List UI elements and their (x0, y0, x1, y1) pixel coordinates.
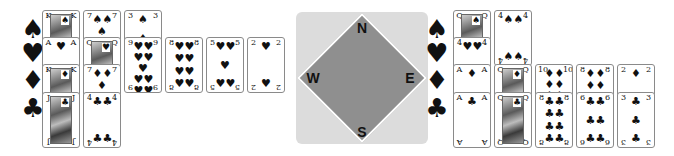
card-6-of-clubs[interactable]: 6666♣♣♣♣♣♣ (576, 92, 614, 148)
suit-pip-icon: ♦ (586, 68, 595, 79)
card-rank: 4 (522, 56, 529, 64)
card-rank: A (481, 94, 488, 102)
card-rank: A (481, 66, 488, 74)
card-pips: ♠♠♠♠ (503, 14, 523, 62)
suit-pip-icon: ♥ (175, 53, 184, 64)
suit-icon: ♥ (102, 43, 110, 52)
card-j-of-clubs[interactable]: JJJJ♣ (42, 92, 80, 148)
suit-pip-icon: ♦ (596, 68, 605, 79)
suit-pip-icon: ♠ (93, 14, 102, 25)
suit-pip-icon: ♥ (185, 78, 194, 89)
suit-pip-icon: ♠ (504, 14, 513, 25)
card-rank: 4 (522, 12, 529, 20)
suit-pip-icon: ♣ (586, 133, 595, 144)
card-pips: ♥♥ (256, 41, 276, 89)
suit-pip-icon: ♥ (463, 41, 472, 52)
suit-label-hearts: ♥ (424, 40, 450, 66)
card-2-of-hearts[interactable]: 2222♥♥ (247, 37, 285, 93)
suit-pip-icon: ♣ (596, 115, 605, 126)
card-rank: 4 (111, 138, 118, 146)
suit-pip-icon: ♣ (586, 115, 595, 126)
suit-icon: ♣ (61, 98, 69, 107)
suit-pip-icon: ♥ (216, 78, 225, 89)
suit-pip-icon: ♠ (514, 51, 523, 62)
card-q-of-clubs[interactable]: QQQQ♣ (494, 92, 532, 148)
suit-pip-icon: ♣ (555, 108, 564, 119)
card-rank: 7 (111, 66, 118, 74)
suit-pip-icon: ♣ (93, 133, 102, 144)
card-rank: 2 (275, 83, 282, 91)
suit-pip-icon: ♥ (216, 41, 225, 52)
card-pips: ♥♥♥♥♥♥♥♥♥ (133, 41, 153, 89)
suit-pip-icon: ♦ (462, 68, 482, 79)
card-pips: ♣♣♣♣♣♣♣♣ (544, 96, 564, 144)
face-card-art: ♣ (50, 96, 72, 144)
suit-pip-icon: ♥ (175, 78, 184, 89)
suit-pip-icon: ♥ (185, 41, 194, 52)
suit-pip-icon: ♣ (545, 108, 554, 119)
suit-pip-icon: ♣ (545, 121, 554, 132)
suit-pip-icon: ♣ (586, 96, 595, 107)
suit-pip-icon: ♥ (175, 41, 184, 52)
suit-pip-icon: ♣ (545, 133, 554, 144)
suit-pip-icon: ♦ (92, 80, 112, 91)
suit-icon: ♣ (513, 98, 521, 107)
card-rank: 9 (152, 83, 159, 91)
card-rank: 3 (645, 94, 652, 102)
suit-pip-icon: ♥ (144, 85, 153, 93)
card-rank: 8 (563, 94, 570, 102)
suit-pip-icon: ♠ (92, 26, 112, 37)
card-8-of-clubs[interactable]: 8888♣♣♣♣♣♣♣♣ (535, 92, 573, 148)
card-rank: A (481, 138, 488, 146)
compass-north: N (354, 20, 370, 36)
suit-pip-icon: ♥ (134, 85, 143, 93)
card-rank: 8 (604, 66, 611, 74)
card-rank: 6 (604, 94, 611, 102)
suit-pip-icon: ♥ (51, 41, 71, 52)
card-rank: 5 (234, 83, 241, 91)
suit-pip-icon: ♦ (93, 68, 102, 79)
suit-pip-icon: ♦ (103, 68, 112, 79)
card-pips: ♣ (462, 96, 482, 144)
suit-pip-icon: ♣ (103, 133, 112, 144)
card-3-of-clubs[interactable]: 3333♣♣♣ (617, 92, 655, 148)
card-pips: ♥♥♥♥♥ (215, 41, 235, 89)
suit-pip-icon: ♣ (626, 96, 646, 107)
suit-pip-icon: ♥ (215, 60, 235, 71)
card-pips: ♣♣♣ (626, 96, 646, 144)
card-9-of-hearts[interactable]: 9999♥♥♥♥♥♥♥♥♥ (124, 37, 162, 93)
compass-west: W (305, 70, 321, 86)
suit-pip-icon: ♥ (226, 41, 235, 52)
card-4-of-spades[interactable]: 4444♠♠♠♠ (494, 10, 532, 66)
card-pips: ♥♥♥♥♥♥♥♥ (174, 41, 194, 89)
card-8-of-hearts[interactable]: 8888♥♥♥♥♥♥♥♥ (165, 37, 203, 93)
suit-pip-icon: ♦ (586, 80, 595, 91)
suit-pip-icon: ♣ (626, 115, 646, 126)
suit-pip-icon: ♥ (185, 66, 194, 77)
card-rank: 4 (111, 94, 118, 102)
card-rank: 8 (193, 39, 200, 47)
card-rank: 3 (645, 138, 652, 146)
suit-icon: ♠ (61, 16, 69, 25)
card-rank: 10 (563, 66, 570, 74)
card-rank: 2 (275, 39, 282, 47)
suit-pip-icon: ♣ (103, 96, 112, 107)
suit-pip-icon: ♦ (626, 68, 646, 79)
compass-east: E (402, 70, 418, 86)
suit-pip-icon: ♠ (133, 14, 153, 25)
suit-pip-icon: ♠ (504, 51, 513, 62)
card-a-of-clubs[interactable]: AAAA♣ (453, 92, 491, 148)
suit-pip-icon: ♥ (256, 78, 276, 89)
card-4-of-clubs[interactable]: 4444♣♣♣♣ (83, 92, 121, 148)
face-card-art: ♣ (502, 96, 524, 144)
suit-pip-icon: ♥ (473, 41, 482, 52)
card-rank: 4 (481, 39, 488, 47)
suit-pip-icon: ♣ (93, 96, 102, 107)
card-5-of-hearts[interactable]: 5555♥♥♥♥♥ (206, 37, 244, 93)
suit-pip-icon: ♣ (545, 96, 554, 107)
suit-pip-icon: ♣ (555, 121, 564, 132)
suit-pip-icon: ♣ (596, 133, 605, 144)
card-rank: 5 (234, 39, 241, 47)
suit-pip-icon: ♣ (596, 96, 605, 107)
suit-pip-icon: ♣ (626, 133, 646, 144)
